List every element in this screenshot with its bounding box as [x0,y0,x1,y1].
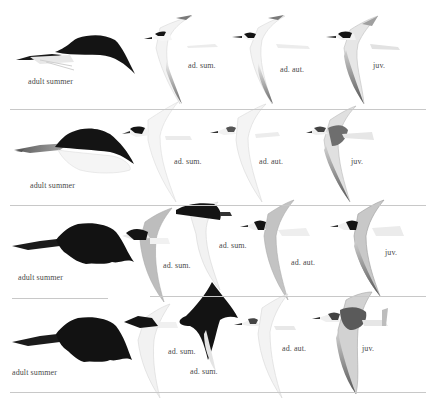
row-1-bird-juv [326,16,400,104]
row-divider-3b [150,296,426,297]
row-3-bird-4-label: juv. [385,248,397,257]
row-1-head [16,35,135,74]
row-1-bird-2-label: ad. aut. [280,65,304,74]
row-divider-2 [10,205,426,206]
row-divider-1 [10,109,426,110]
row-2-bird-juv [306,106,374,202]
row-3-head [12,223,134,264]
row-3-head-label: adult summer [18,273,63,282]
row-divider-3a [12,298,108,299]
tern-identification-plate: adult summer ad. sum. ad. aut. juv. adul… [0,0,434,402]
row-3-bird-ad-aut [240,200,310,300]
row-4-head-label: adult summer [12,368,57,377]
row-divider-4 [10,392,426,393]
row-2-head-label: adult summer [30,181,75,190]
row-4-bird-juv [312,292,388,394]
row-1-bird-1-label: ad. sum. [188,61,216,70]
row-4-bird-3-label: ad. aut. [282,344,306,353]
row-4-bird-2-label: ad. sum. [190,367,218,376]
row-2-head [14,128,134,173]
row-2-bird-ad-sum [122,102,192,202]
row-4-head [12,317,132,362]
row-1-bird-ad-aut [232,15,310,104]
row-1-bird-ad-sum [144,15,218,104]
row-2-bird-1-label: ad. sum. [174,157,202,166]
row-4-bird-4-label: juv. [362,344,374,353]
row-3-bird-1-label: ad. sum. [163,261,191,270]
row-2-bird-3-label: juv. [351,157,363,166]
row-1-head-label: adult summer [28,77,73,86]
tern-illustrations [0,0,434,402]
row-1-bird-3-label: juv. [373,61,385,70]
row-3-bird-3-label: ad. aut. [291,258,315,267]
row-3-bird-2-label: ad. sum. [219,241,247,250]
row-2-bird-2-label: ad. aut. [259,157,283,166]
row-4-bird-1-label: ad. sum. [168,347,196,356]
row-2-bird-ad-aut [210,104,280,202]
